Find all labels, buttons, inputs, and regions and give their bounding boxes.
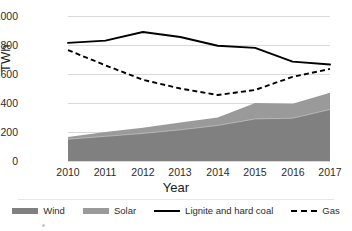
legend-label-lignite-and-hard-coal: Lignite and hard coal	[185, 205, 273, 216]
legend-item-wind[interactable]: Wind	[12, 205, 65, 216]
line-lignite-and-hard-coal	[68, 32, 330, 65]
x-tick-label-2011: 2011	[85, 166, 125, 178]
legend-item-lignite-and-hard-coal[interactable]: Lignite and hard coal	[154, 205, 273, 216]
x-tick-label-2017: 2017	[310, 166, 350, 178]
legend-label-gas: Gas	[322, 205, 339, 216]
plot-area	[68, 16, 330, 161]
legend-item-solar[interactable]: Solar	[83, 205, 136, 216]
dashed-line-swatch-icon	[291, 210, 317, 212]
x-axis-title: Year	[0, 180, 352, 195]
axis-baseline-0	[68, 161, 330, 162]
x-tick-label-2013: 2013	[160, 166, 200, 178]
solid-line-swatch-icon	[154, 210, 180, 212]
line-gas	[68, 50, 330, 95]
legend-item-gas[interactable]: Gas	[291, 205, 339, 216]
x-tick-label-2012: 2012	[123, 166, 163, 178]
wind-swatch-icon	[12, 208, 38, 214]
y-tick-label-0: 0	[0, 156, 18, 166]
x-tick-label-2016: 2016	[273, 166, 313, 178]
y-tick-label-600: 600	[0, 69, 18, 79]
chart-legend: Wind Solar Lignite and hard coal Gas	[0, 205, 352, 216]
legend-label-solar: Solar	[114, 205, 136, 216]
x-tick-label-2015: 2015	[235, 166, 275, 178]
x-tick-label-2010: 2010	[48, 166, 88, 178]
y-tick-label-800: 800	[0, 40, 18, 50]
y-tick-label-400: 400	[0, 98, 18, 108]
legend-label-wind: Wind	[43, 205, 65, 216]
legend-divider	[18, 199, 334, 200]
stray-artifact-dot	[42, 224, 45, 227]
y-tick-label-1000: 1000	[0, 11, 18, 21]
series-svg	[68, 16, 330, 161]
chart-container: TWh 1000 800 600 400 200 0 2010 2011 201…	[0, 0, 352, 231]
y-tick-label-200: 200	[0, 127, 18, 137]
x-tick-label-2014: 2014	[198, 166, 238, 178]
solar-swatch-icon	[83, 208, 109, 214]
